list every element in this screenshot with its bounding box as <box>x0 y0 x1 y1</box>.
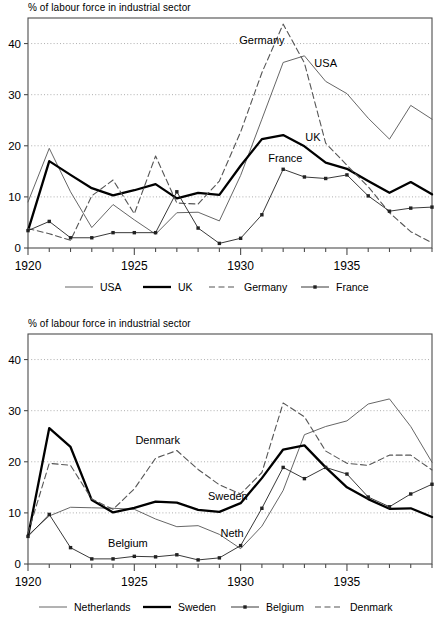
series-marker-belgium <box>303 477 306 480</box>
series-annotation-uk: UK <box>305 131 321 143</box>
series-marker-belgium <box>345 472 348 475</box>
series-annotation-neth: Neth <box>221 527 244 539</box>
chart-bottom-legend: NetherlandsSwedenBelgiumDenmark <box>0 596 444 618</box>
series-marker-france <box>69 236 72 239</box>
legend-label-belgium: Belgium <box>266 601 304 613</box>
series-marker-france <box>133 231 136 234</box>
series-line-uk <box>28 135 432 231</box>
ytick-label: 10 <box>8 191 21 203</box>
ytick-label: 20 <box>8 140 21 152</box>
series-marker-belgium <box>48 513 51 516</box>
legend-item-netherlands[interactable]: Netherlands <box>38 601 142 613</box>
xtick-label: 1925 <box>121 575 148 589</box>
legend-item-france[interactable]: France <box>300 281 380 293</box>
series-annotation-germany: Germany <box>239 34 285 46</box>
xtick-label: 1935 <box>334 259 361 273</box>
legend-label-denmark: Denmark <box>350 601 393 613</box>
legend-label-sweden: Sweden <box>178 601 216 613</box>
series-marker-belgium <box>218 556 221 559</box>
ytick-label: 30 <box>8 405 21 417</box>
legend-label-france: France <box>336 281 369 293</box>
figure: % of labour force in industrial sector 0… <box>0 0 444 633</box>
legend-item-usa[interactable]: USA <box>64 281 142 293</box>
series-marker-france <box>367 194 370 197</box>
legend-swatch-sweden <box>142 601 172 613</box>
series-marker-belgium <box>26 535 29 538</box>
legend-swatch-netherlands <box>38 601 68 613</box>
legend-swatch-france <box>300 281 330 293</box>
series-marker-france <box>388 210 391 213</box>
legend-item-uk[interactable]: UK <box>142 281 208 293</box>
chart-bottom: % of labour force in industrial sector 0… <box>0 316 444 633</box>
legend-swatch-uk <box>142 281 172 293</box>
xtick-label: 1935 <box>334 575 361 589</box>
series-marker-belgium <box>260 507 263 510</box>
series-marker-france <box>239 237 242 240</box>
xtick-label: 1920 <box>15 575 42 589</box>
series-line-denmark <box>28 403 432 533</box>
legend-swatch-usa <box>64 281 94 293</box>
chart-top: % of labour force in industrial sector 0… <box>0 0 444 316</box>
series-marker-belgium <box>388 505 391 508</box>
legend-label-uk: UK <box>178 281 193 293</box>
series-marker-belgium <box>281 466 284 469</box>
series-marker-belgium <box>175 553 178 556</box>
xtick-label: 1920 <box>15 259 42 273</box>
series-marker-belgium <box>196 558 199 561</box>
ytick-label: 20 <box>8 456 21 468</box>
series-marker-belgium <box>367 495 370 498</box>
series-marker-france <box>345 173 348 176</box>
ytick-label: 40 <box>8 354 21 366</box>
series-marker-france <box>48 220 51 223</box>
series-marker-belgium <box>409 492 412 495</box>
ytick-label: 10 <box>8 507 21 519</box>
series-marker-france <box>26 229 29 232</box>
series-line-belgium <box>28 467 432 560</box>
series-marker-belgium <box>154 555 157 558</box>
series-annotation-sweden: Sweden <box>208 490 248 502</box>
series-marker-france <box>281 168 284 171</box>
series-marker-belgium <box>239 544 242 547</box>
series-annotation-france: France <box>268 152 302 164</box>
series-line-germany <box>28 24 432 243</box>
chart-bottom-svg: 0102030401920192519301935NethSwedenBelgi… <box>0 316 444 594</box>
series-marker-france <box>90 236 93 239</box>
series-marker-belgium <box>69 546 72 549</box>
series-marker-belgium <box>430 483 433 486</box>
series-marker-france <box>154 231 157 234</box>
legend-item-denmark[interactable]: Denmark <box>314 601 406 613</box>
series-marker-belgium <box>133 555 136 558</box>
xtick-label: 1930 <box>227 259 254 273</box>
ytick-label: 0 <box>15 242 21 254</box>
legend-swatch-belgium <box>230 601 260 613</box>
series-line-netherlands <box>28 399 432 549</box>
series-annotation-belgium: Belgium <box>108 537 148 549</box>
series-marker-france <box>324 177 327 180</box>
legend-label-netherlands: Netherlands <box>74 601 131 613</box>
series-marker-france <box>196 226 199 229</box>
ytick-label: 30 <box>8 89 21 101</box>
chart-bottom-plot: 0102030401920192519301935NethSwedenBelgi… <box>0 316 444 576</box>
series-marker-belgium <box>324 466 327 469</box>
series-marker-france <box>175 190 178 193</box>
series-line-sweden <box>28 428 432 536</box>
legend-label-usa: USA <box>100 281 122 293</box>
series-marker-france <box>218 242 221 245</box>
series-marker-france <box>430 205 433 208</box>
series-annotation-denmark: Denmark <box>135 434 180 446</box>
series-line-usa <box>28 56 432 234</box>
series-marker-belgium <box>111 557 114 560</box>
legend-item-germany[interactable]: Germany <box>208 281 300 293</box>
chart-top-legend: USAUKGermanyFrance <box>0 276 444 298</box>
chart-top-svg: 0102030401920192519301935USAUKGermanyFra… <box>0 0 444 276</box>
legend-item-belgium[interactable]: Belgium <box>230 601 314 613</box>
legend-item-sweden[interactable]: Sweden <box>142 601 230 613</box>
series-marker-france <box>260 213 263 216</box>
plot-frame <box>28 18 432 248</box>
series-marker-france <box>111 231 114 234</box>
xtick-label: 1925 <box>121 259 148 273</box>
ytick-label: 40 <box>8 38 21 50</box>
chart-top-plot: 0102030401920192519301935USAUKGermanyFra… <box>0 0 444 260</box>
series-marker-belgium <box>90 557 93 560</box>
legend-swatch-germany <box>208 281 238 293</box>
